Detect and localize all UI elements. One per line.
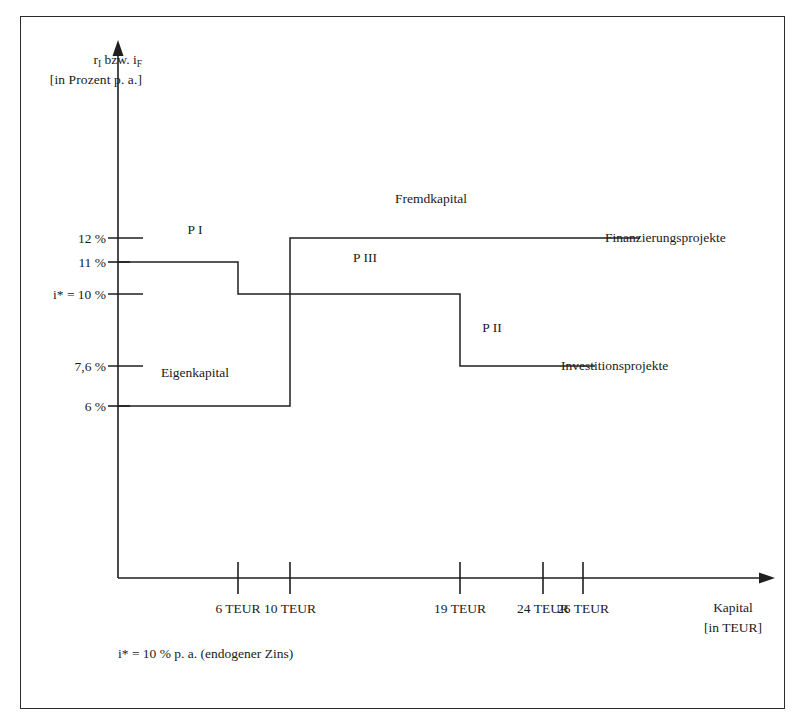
y-axis-caption-line2: [in Prozent p. a.]	[36, 70, 142, 90]
y-axis-caption-mid: bzw. i	[101, 52, 137, 67]
x-tick-label-26: 26 TEUR	[533, 600, 633, 617]
series-label-finanzierungsprojekte: Finanzierungsprojekte	[605, 229, 726, 246]
y-tick-label-7-6: 7,6 %	[28, 358, 106, 375]
x-axis-arrowhead	[759, 573, 775, 584]
x-axis-caption-line2: [in TEUR]	[680, 618, 786, 638]
y-tick-label-11: 11 %	[28, 254, 106, 271]
annotation-eigenkapital: Eigenkapital	[130, 364, 260, 381]
y-tick-label-12: 12 %	[28, 230, 106, 247]
x-axis-caption: Kapital [in TEUR]	[680, 598, 786, 637]
footnote: i* = 10 % p. a. (endogener Zins)	[118, 645, 293, 662]
investitionsprojekte-curve	[118, 262, 595, 366]
series-label-investitionsprojekte: Investitionsprojekte	[561, 357, 668, 374]
y-tick-label-6: 6 %	[28, 398, 106, 415]
annotation-p1: P I	[155, 221, 235, 238]
y-axis-caption: rI bzw. iF [in Prozent p. a.]	[36, 50, 142, 91]
x-tick-label-10: 10 TEUR	[240, 600, 340, 617]
x-axis-caption-line1: Kapital	[680, 598, 786, 618]
annotation-p3: P III	[325, 249, 405, 266]
y-axis-caption-sub-i: I	[98, 59, 101, 69]
y-axis-caption-line1: rI bzw. iF	[36, 50, 142, 70]
y-axis-caption-sub-f: F	[137, 59, 142, 69]
annotation-p2: P II	[452, 319, 532, 336]
y-tick-label-10: i* = 10 %	[18, 286, 106, 303]
figure-page: rI bzw. iF [in Prozent p. a.] 12 % 11 % …	[0, 0, 803, 728]
annotation-fremdkapital: Fremdkapital	[356, 190, 506, 207]
